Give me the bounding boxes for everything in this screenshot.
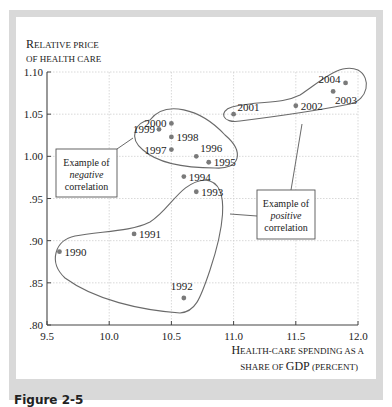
positive-box-line2: positive bbox=[269, 210, 302, 221]
point-label: 1997 bbox=[144, 144, 167, 156]
point-label: 1993 bbox=[201, 186, 224, 198]
y-tick-label: 1.05 bbox=[24, 108, 44, 120]
data-point: 2003 bbox=[331, 89, 358, 106]
data-point: 1990 bbox=[57, 246, 87, 258]
point-label: 1994 bbox=[189, 171, 212, 183]
data-point: 1995 bbox=[206, 156, 236, 168]
y-tick-label: .80 bbox=[29, 319, 43, 331]
point-label: 2001 bbox=[238, 101, 260, 113]
data-point: 2004 bbox=[319, 73, 348, 85]
x-tick-label: 11.5 bbox=[286, 330, 305, 342]
y-axis-label: RELATIVE PRICE bbox=[26, 37, 99, 51]
positive-callout-line-up bbox=[291, 124, 302, 190]
point-label: 2003 bbox=[335, 94, 358, 106]
y-axis-label-line2: OF HEALTH CARE bbox=[26, 54, 102, 64]
x-tick-label: 10.0 bbox=[100, 330, 120, 342]
x-tick-label: 12.0 bbox=[348, 330, 368, 342]
data-point: 1993 bbox=[194, 186, 224, 198]
negative-callout-line bbox=[117, 138, 133, 149]
point-label: 1996 bbox=[200, 142, 223, 154]
x-tick-label: 9.5 bbox=[40, 330, 54, 342]
point-label: 1998 bbox=[176, 131, 199, 143]
y-tick-label: .90 bbox=[29, 235, 43, 247]
data-point: 1997 bbox=[144, 144, 173, 156]
point-label: 2004 bbox=[319, 73, 342, 85]
negative-box-line3: correlation bbox=[65, 181, 108, 192]
point-label: 1990 bbox=[64, 246, 87, 258]
data-point: 1998 bbox=[169, 131, 199, 143]
data-point: 2000 bbox=[144, 117, 173, 129]
positive-box-line3: correlation bbox=[264, 222, 307, 233]
x-tick-label: 10.5 bbox=[162, 330, 182, 342]
point-label: 1991 bbox=[139, 228, 161, 240]
y-tick-label: .95 bbox=[29, 193, 43, 205]
data-point: 1994 bbox=[181, 171, 211, 183]
x-axis-label: HEALTH-CARE SPENDING AS A bbox=[231, 343, 364, 357]
data-point: 1991 bbox=[132, 228, 161, 240]
point-label: 1995 bbox=[214, 156, 237, 168]
data-point: 1992 bbox=[171, 280, 193, 300]
data-point: 2002 bbox=[293, 100, 322, 112]
positive-box-line1: Example of bbox=[263, 198, 310, 209]
y-tick-label: 1.10 bbox=[24, 66, 44, 78]
negative-box-line2: negative bbox=[70, 169, 104, 180]
point-label: 1992 bbox=[171, 280, 193, 292]
point-label: 2000 bbox=[144, 117, 167, 129]
x-tick-label: 11.0 bbox=[224, 330, 243, 342]
positive-callout-line-left bbox=[230, 214, 257, 216]
negative-box-line1: Example of bbox=[63, 157, 110, 168]
y-tick-label: .85 bbox=[29, 277, 43, 289]
y-tick-label: 1.00 bbox=[24, 150, 44, 162]
point-label: 2002 bbox=[301, 100, 323, 112]
x-axis-label-line2: SHARE OF GDP (PERCENT) bbox=[240, 359, 358, 373]
